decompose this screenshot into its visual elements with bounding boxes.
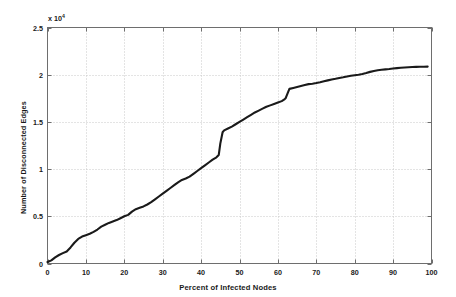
data-series-line	[48, 67, 428, 262]
y-tick-label: 0.5	[18, 212, 43, 221]
x-tick-label: 90	[389, 268, 397, 277]
y-axis-exponent-base: x 10	[48, 14, 62, 23]
x-tick-label: 100	[426, 268, 438, 277]
x-tick-label: 10	[82, 268, 90, 277]
y-tick-label: 2	[18, 70, 43, 79]
y-tick-label: 1.5	[18, 117, 43, 126]
x-tick-label: 60	[274, 268, 282, 277]
x-tick-label: 20	[120, 268, 128, 277]
y-tick-label: 1	[18, 165, 43, 174]
x-tick-label: 40	[197, 268, 205, 277]
y-axis-exponent: x 104	[48, 13, 65, 23]
x-tick-label: 0	[46, 268, 50, 277]
x-tick-label: 50	[236, 268, 244, 277]
y-tick-label: 0	[18, 259, 43, 268]
x-tick-label: 30	[159, 268, 167, 277]
chart-figure: x 104 Number of Disconnected Edges Perce…	[0, 0, 456, 297]
x-axis-title: Percent of Infected Nodes	[0, 283, 456, 292]
y-axis-exponent-power: 4	[62, 13, 65, 19]
x-tick-label: 80	[351, 268, 359, 277]
chart-plot-area	[0, 0, 456, 297]
gridlines	[48, 28, 432, 264]
y-tick-label: 2.5	[18, 23, 43, 32]
x-tick-label: 70	[312, 268, 320, 277]
plot-frame	[48, 28, 432, 264]
